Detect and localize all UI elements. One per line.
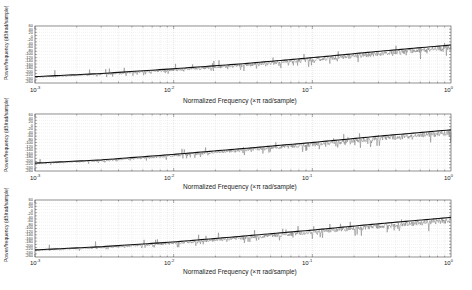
x-tick-1e-3: 10-3: [30, 258, 40, 266]
x-tick-1e-2: 10-2: [164, 258, 174, 266]
x-tick-1e-1: 10-1: [302, 258, 312, 266]
subplot-3: Power/frequency (dB/rad/sample) 6040200-…: [0, 0, 472, 280]
y-axis-label: Power/frequency (dB/rad/sample): [3, 188, 9, 262]
y-tick-labels: 6040200-20-40-60-80-100-120-140-160-180-…: [11, 198, 33, 258]
plot-area: [35, 200, 451, 257]
x-tick-1e0: 100: [444, 258, 453, 266]
figure: Power/frequency (dB/rad/sample) 6040200-…: [0, 0, 472, 290]
x-axis-label: Normalized Frequency (×π rad/sample): [183, 268, 297, 275]
